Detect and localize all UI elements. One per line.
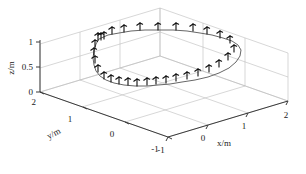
y-axis-title: y/m xyxy=(45,126,62,141)
x-tick-label-1: 1 xyxy=(242,121,247,131)
z-axis-title: z/m xyxy=(6,61,16,75)
y-tick-label-1: 1 xyxy=(68,114,73,124)
x-axis-title: x/m xyxy=(217,138,231,148)
x-tick-label-neg1: -1 xyxy=(157,145,165,155)
trajectory-3d-figure: 1 0.5 0 z/m 2 1 0 -1 y/m -1 0 1 2 x/m xyxy=(0,0,306,174)
y-tick-label-0: 0 xyxy=(110,129,115,139)
y-tick-label-2: 2 xyxy=(32,97,37,107)
pose-marker-group xyxy=(91,23,237,86)
floor-grid xyxy=(40,56,288,137)
x-axis-spine xyxy=(168,101,288,137)
back-left-wall-grid xyxy=(40,8,160,92)
back-right-wall-grid xyxy=(160,8,288,101)
axis-spines xyxy=(40,40,288,137)
plot-canvas: 1 0.5 0 z/m 2 1 0 -1 y/m -1 0 1 2 x/m xyxy=(0,0,306,174)
z-tick-label-0: 0 xyxy=(29,87,34,97)
x-tick-label-2: 2 xyxy=(284,110,289,120)
z-axis-ticks xyxy=(36,42,40,92)
z-tick-label-1: 1 xyxy=(29,37,34,47)
z-tick-label-0-5: 0.5 xyxy=(22,62,34,72)
x-tick-label-0: 0 xyxy=(201,133,206,143)
trajectory-curve xyxy=(93,30,241,86)
